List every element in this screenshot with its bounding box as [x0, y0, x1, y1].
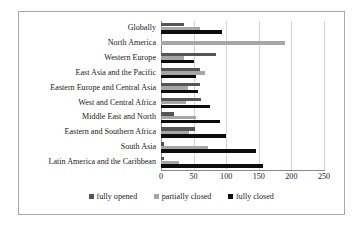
bar-fully-closed — [161, 164, 263, 167]
y-axis-label-3: East Asia and the Pacific — [76, 66, 156, 81]
legend-label: fully opened — [97, 192, 138, 201]
y-axis-label-1: North America — [108, 36, 156, 51]
x-axis-line — [161, 170, 325, 171]
x-tick-label-0: 0 — [159, 172, 163, 181]
bar-fully-closed — [161, 60, 194, 63]
bar-group — [161, 125, 324, 140]
bar-fully-closed — [161, 134, 226, 137]
plot-area — [161, 21, 324, 170]
y-axis-label-2: Western Europe — [104, 51, 156, 66]
legend-swatch-icon — [228, 194, 233, 199]
bar-group — [161, 36, 324, 51]
legend-item-partially-closed[interactable]: partially closed — [154, 192, 211, 201]
bar-group — [161, 155, 324, 170]
x-tick-label-50: 50 — [190, 172, 198, 181]
legend-label: partially closed — [162, 192, 212, 201]
gridline-250 — [324, 21, 325, 170]
x-axis-tick-labels: 050100150200250 — [161, 172, 324, 186]
y-axis-label-9: Latin America and the Caribbean — [49, 155, 156, 170]
bar-fully-closed — [161, 90, 198, 93]
legend-label: fully closed — [236, 192, 274, 201]
x-tick-label-100: 100 — [220, 172, 232, 181]
bar-group — [161, 140, 324, 155]
y-axis-label-4: Eastern Europe and Central Asia — [50, 81, 156, 96]
x-tick-label-250: 250 — [318, 172, 330, 181]
legend-swatch-icon — [154, 194, 159, 199]
bar-fully-closed — [161, 75, 196, 78]
bar-fully-closed — [161, 105, 210, 108]
x-tick-label-150: 150 — [253, 172, 265, 181]
bar-group — [161, 81, 324, 96]
bar-fully-closed — [161, 30, 222, 33]
y-axis-label-6: Middle East and North — [82, 110, 156, 125]
bar-group — [161, 110, 324, 125]
bar-group — [161, 21, 324, 36]
bar-group — [161, 51, 324, 66]
chart-frame: GloballyNorth AmericaWestern EuropeEast … — [18, 11, 345, 215]
bar-group — [161, 66, 324, 81]
y-axis-label-8: South Asia — [121, 140, 156, 155]
y-axis-label-5: West and Central Africa — [78, 96, 156, 111]
y-axis-label-0: Globally — [128, 21, 156, 36]
legend-swatch-icon — [89, 194, 94, 199]
legend-item-fully-opened[interactable]: fully opened — [89, 192, 137, 201]
chart-legend: fully openedpartially closedfully closed — [19, 192, 344, 201]
x-tick-label-200: 200 — [285, 172, 297, 181]
bar-fully-closed — [161, 120, 220, 123]
bar-fully-closed — [161, 149, 256, 152]
y-axis-label-7: Eastern and Southern Africa — [65, 125, 156, 140]
legend-item-fully-closed[interactable]: fully closed — [228, 192, 274, 201]
y-axis-category-labels: GloballyNorth AmericaWestern EuropeEast … — [19, 21, 159, 170]
bar-partially-closed — [161, 41, 285, 44]
bar-group — [161, 96, 324, 111]
